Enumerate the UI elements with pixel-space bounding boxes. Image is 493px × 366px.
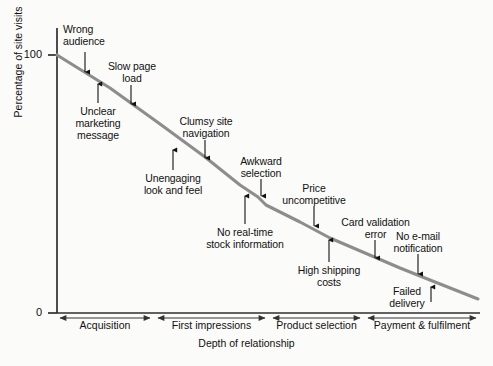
annotation-wrong-audience: Wrong audience (63, 23, 135, 47)
annotation-slow-page-load: Slow page load (95, 60, 169, 84)
chart-canvas (0, 0, 493, 366)
annotation-price-uncompetitive: Price uncompetitive (272, 182, 356, 206)
annotation-no-real-time-stock-information: No real-time stock information (196, 226, 294, 250)
annotation-unengaging-look-and-feel: Unengaging look and feel (129, 172, 217, 196)
stage-label-payment-fulfilment: Payment & fulfilment (366, 319, 478, 331)
annotation-clumsy-site-navigation: Clumsy site navigation (166, 115, 246, 139)
stage-label-product-selection: Product selection (273, 319, 360, 331)
stage-label-first-impressions: First impressions (158, 319, 265, 331)
stage-label-acquisition: Acquisition (60, 319, 150, 331)
annotation-unclear-marketing-message: Unclear marketing message (58, 105, 138, 142)
x-axis-title: Depth of relationship (0, 337, 493, 349)
annotation-awkward-selection: Awkward selection (223, 155, 299, 179)
chart-figure: 100 0 Percentage of site visits Depth of… (0, 0, 493, 366)
y-axis-title: Percentage of site visits (12, 0, 24, 132)
annotation-no-e-mail-notification: No e-mail notification (376, 230, 460, 254)
y-tick-label-0: 0 (8, 306, 42, 318)
annotation-failed-delivery: Failed delivery (385, 285, 429, 309)
annotation-high-shipping-costs: High shipping costs (283, 264, 375, 288)
